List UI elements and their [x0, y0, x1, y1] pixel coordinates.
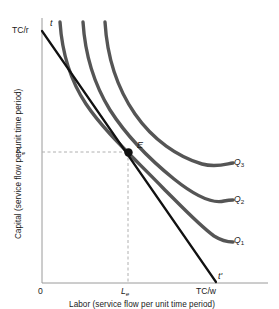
y-tick-symbol: K [16, 145, 22, 155]
isoquant-isocost-figure: Capital (service flow per unit time peri… [0, 0, 279, 309]
isoquant-curve-q2 [83, 22, 233, 202]
equilibrium-point [124, 148, 132, 156]
isoquant-q3-subscript: 3 [241, 161, 244, 168]
y-tick-subscript: e [22, 149, 25, 156]
equilibrium-label: E [137, 141, 143, 150]
x-tick-label-le: Le [121, 287, 129, 296]
isoquant-q3-symbol: Q [234, 157, 241, 167]
isoquant-q2-subscript: 2 [241, 198, 244, 205]
y-tick-label-ke: Ke [16, 146, 25, 155]
plot-area [0, 0, 279, 309]
isocost-start-label: t [50, 19, 53, 28]
y-intercept-label: TC/r [12, 26, 29, 35]
isoquant-q1-subscript: 1 [241, 239, 244, 246]
isoquant-q2-symbol: Q [234, 194, 241, 204]
isoquant-q1-symbol: Q [234, 235, 241, 245]
x-axis-title: Labor (service flow per unit time period… [42, 301, 242, 309]
isoquant-label-q3: Q3 [234, 158, 244, 167]
y-axis-title: Capital (service flow per unit time peri… [15, 89, 23, 239]
x-intercept-label: TC/w [196, 287, 216, 296]
origin-label: 0 [38, 287, 43, 296]
isocost-end-label: t' [218, 272, 222, 281]
isoquant-label-q1: Q1 [234, 236, 244, 245]
isoquant-curve-q3 [105, 22, 233, 166]
x-tick-subscript: e [126, 290, 129, 297]
isoquant-label-q2: Q2 [234, 195, 244, 204]
